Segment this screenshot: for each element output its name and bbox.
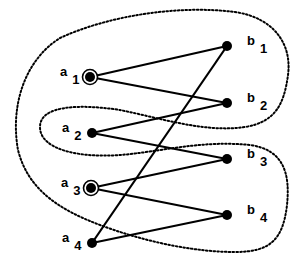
label-a3: a3 (61, 175, 80, 198)
edge-a2-b2 (92, 103, 227, 133)
diagram-svg: a1a2a3a4b1b2b3b4 (0, 0, 296, 267)
label-b1: b1 (247, 33, 267, 56)
node-b1 (222, 41, 232, 51)
edge-a3-b3 (91, 159, 227, 188)
node-b2 (222, 98, 232, 108)
label-b4: b4 (247, 202, 268, 225)
label-b2: b2 (247, 90, 267, 113)
edge-a1-b1 (90, 46, 227, 77)
edge-a1-b2 (90, 77, 227, 103)
label-a2: a2 (62, 120, 81, 143)
bipartite-diagram: a1a2a3a4b1b2b3b4 (0, 0, 296, 267)
node-a1 (85, 72, 95, 82)
node-b4 (222, 210, 232, 220)
edge-a4-b4 (92, 215, 227, 243)
node-a3 (86, 183, 96, 193)
node-b3 (222, 154, 232, 164)
node-a2 (87, 128, 97, 138)
label-a1: a1 (60, 64, 79, 87)
labels-group: a1a2a3a4b1b2b3b4 (60, 33, 268, 253)
edge-a3-b4 (91, 188, 227, 215)
label-a4: a4 (62, 230, 82, 253)
node-a4 (87, 238, 97, 248)
